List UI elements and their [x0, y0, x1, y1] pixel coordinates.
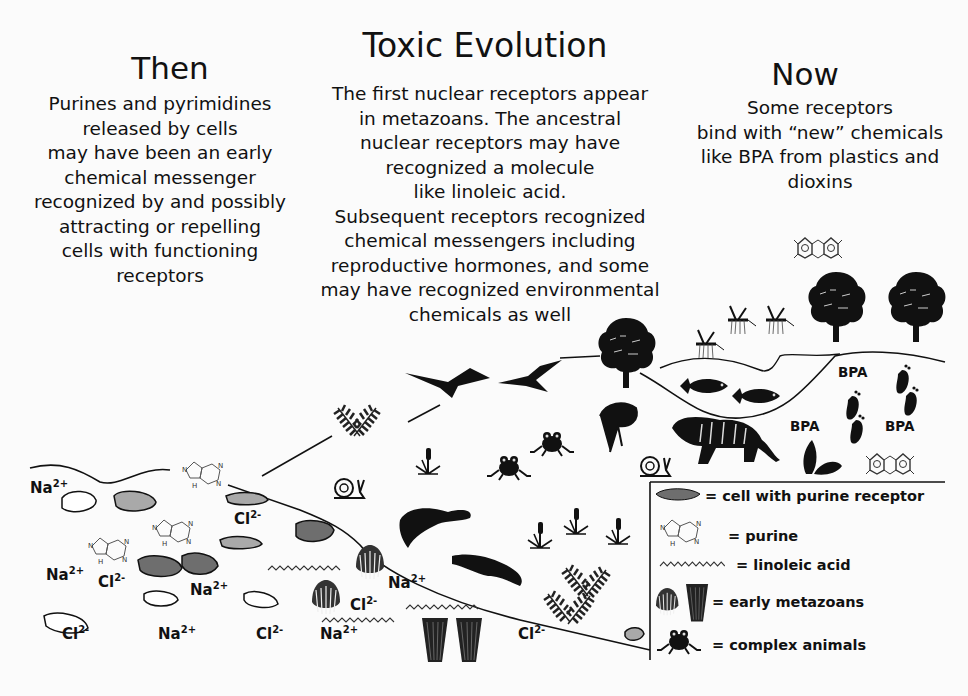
diagram-title: Toxic Evolution [330, 26, 640, 65]
ion-label: Cl2- [518, 624, 545, 643]
legend-item-cell: = cell with purine receptor [705, 486, 924, 505]
ion-label: Na2+ [30, 478, 68, 497]
legend-label: = complex animals [712, 637, 866, 653]
legend-item-linoleic-acid: = linoleic acid [736, 555, 851, 574]
middle-description: The first nuclear receptors appear in me… [300, 82, 680, 327]
ion-label: Cl2- [62, 624, 89, 643]
then-heading: Then [70, 50, 270, 86]
bpa-label: BPA [885, 418, 914, 434]
legend-item-purine: = purine [728, 526, 798, 545]
now-heading: Now [720, 56, 890, 92]
ion-label: Cl2- [234, 509, 261, 528]
bpa-label: BPA [790, 418, 819, 434]
legend-label: = linoleic acid [736, 557, 851, 573]
lake-surface-line [660, 354, 840, 371]
then-description: Purines and pyrimidines released by cell… [10, 92, 310, 288]
land-slope-line-1 [262, 436, 332, 476]
legend-label: = early metazoans [712, 594, 864, 610]
legend-label: = cell with purine receptor [705, 488, 924, 504]
ion-label: Cl2- [256, 624, 283, 643]
ion-label: Na2+ [388, 573, 426, 592]
legend-item-early-metazoans: = early metazoans [712, 592, 864, 611]
ion-label: Cl2- [350, 595, 377, 614]
legend-label: = purine [728, 528, 798, 544]
land-slope-line-2 [408, 405, 440, 422]
ion-label: Cl2- [98, 572, 125, 591]
ion-label: Na2+ [320, 624, 358, 643]
ion-label: Na2+ [158, 624, 196, 643]
bpa-label: BPA [838, 364, 867, 380]
legend-item-complex-animals: = complex animals [712, 635, 866, 654]
ion-label: Na2+ [46, 565, 84, 584]
now-description: Some receptors bind with “new” chemicals… [690, 96, 950, 194]
ion-label: Na2+ [190, 580, 228, 599]
